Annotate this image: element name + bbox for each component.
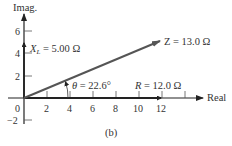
y-tick-minus2: −2 <box>7 115 18 126</box>
y-tick-6: 6 <box>15 26 20 37</box>
x-tick-0: 0 <box>15 103 20 114</box>
y-axis-label: Imag. <box>13 2 37 13</box>
figure-caption: (b) <box>105 127 118 139</box>
x-tick-8: 8 <box>113 103 118 114</box>
x-tick-4: 4 <box>67 103 72 114</box>
x-tick-2: 2 <box>44 103 49 114</box>
x-tick-6: 6 <box>90 103 95 114</box>
y-tick-2: 2 <box>15 71 20 82</box>
x-tick-12: 12 <box>156 103 166 114</box>
z-label: Z = 13.0 Ω <box>164 36 211 47</box>
x-axis-label: Real <box>207 92 226 103</box>
theta-label: θ = 22.6° <box>72 80 111 91</box>
phasor-diagram: 0 2 4 6 8 10 12 6 4 2 −2 Imag. Real XL =… <box>0 0 232 146</box>
theta-arc <box>66 82 69 98</box>
r-label: R = 12.0 Ω <box>134 80 182 91</box>
x-tick-10: 10 <box>133 103 143 114</box>
y-tick-4: 4 <box>15 48 20 59</box>
xl-label: XL = 5.00 Ω <box>29 43 80 56</box>
